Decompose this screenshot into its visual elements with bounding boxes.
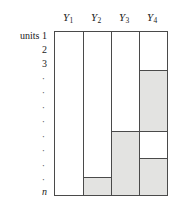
units-axis-label: units 1	[20, 31, 47, 41]
row-label-1: 1	[42, 30, 47, 41]
row-label-n: n	[42, 187, 47, 197]
column-header-Y2-subscript: 2	[97, 16, 101, 25]
column-separator-3	[139, 32, 140, 195]
step-edge-Y3	[111, 131, 139, 132]
row-label-ellipsis-6: ·	[42, 146, 45, 156]
row-label-ellipsis-7: ·	[42, 161, 45, 171]
column-separator-2	[111, 32, 112, 195]
column-header-Y4-subscript: 4	[153, 16, 157, 25]
step-edge-Y4-band-bottom	[139, 158, 167, 159]
column-header-Y3: Y3	[110, 11, 138, 25]
column-header-Y1: Y1	[54, 11, 82, 25]
cell-Y1-observed	[55, 32, 83, 195]
step-edge-Y4-top	[139, 70, 167, 71]
row-label-axis: units 1 2 3 · · · · · · · · n	[0, 28, 50, 198]
cell-Y2-missing	[83, 177, 111, 195]
column-header-Y2: Y2	[82, 11, 110, 25]
missing-data-pattern-figure: Y1 Y2 Y3 Y4 units 1 2 3 · · · · · · · · …	[0, 0, 180, 208]
column-header-Y3-subscript: 3	[125, 16, 129, 25]
step-edge-Y4-band-top	[139, 131, 167, 132]
column-header-row: Y1 Y2 Y3 Y4	[54, 11, 168, 29]
cell-Y3-observed	[111, 32, 139, 131]
row-label-ellipsis-2: ·	[42, 88, 45, 98]
column-header-Y1-subscript: 1	[69, 16, 73, 25]
row-label-ellipsis-4: ·	[42, 117, 45, 127]
column-separator-1	[83, 32, 84, 195]
units-word: units	[20, 30, 39, 41]
cell-Y3-missing	[111, 131, 139, 195]
cropped-text-artifact	[6, 1, 68, 7]
cell-Y2-observed	[83, 32, 111, 177]
cell-Y4-missing-upper	[139, 70, 167, 130]
row-label-ellipsis-1: ·	[42, 74, 45, 84]
row-label-2: 2	[42, 45, 47, 55]
row-label-ellipsis-5: ·	[42, 132, 45, 142]
cell-Y4-observed-top	[139, 32, 167, 70]
row-label-ellipsis-3: ·	[42, 103, 45, 113]
cell-Y4-missing-lower	[139, 158, 167, 195]
row-label-ellipsis-8: ·	[42, 175, 45, 185]
step-edge-Y2	[83, 177, 111, 178]
row-label-3: 3	[42, 59, 47, 69]
cell-Y4-observed-band	[139, 131, 167, 158]
data-matrix	[54, 31, 168, 196]
column-header-Y4: Y4	[138, 11, 166, 25]
